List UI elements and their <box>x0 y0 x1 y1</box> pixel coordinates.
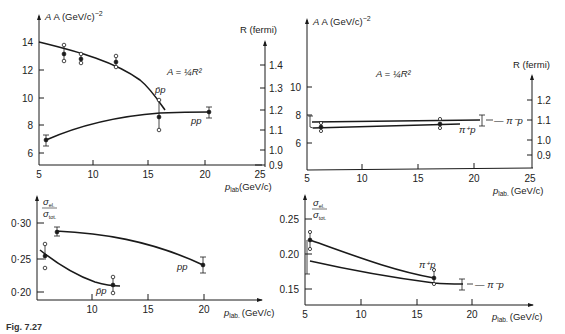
y-tick-label: 6 <box>295 138 301 149</box>
chart-bottom-right: 5 10 15 20 0.25 0.20 0.15 σel. σtot. π⁺p… <box>280 194 543 323</box>
chart-top-right: 5 10 15 20 25 10 8 6 1.2 1.1 1.0 0.9 A A… <box>290 15 551 197</box>
series-label-pbarp: p̄p <box>95 285 107 296</box>
y-tick-label: 12 <box>22 65 34 76</box>
y-tick-label: 8 <box>27 120 33 131</box>
x-tick-label: 15 <box>411 309 423 320</box>
y-tick-label: 0·30 <box>11 218 31 229</box>
series-label-pp: pp <box>190 115 202 126</box>
y-tick-label: 0·25 <box>11 254 31 265</box>
y-axis-label: σel. σtot. <box>42 196 57 220</box>
piplus-p-fit-curve <box>310 240 434 278</box>
formula-annotation: A = ¼R² <box>166 66 203 77</box>
y2-tick-label: 1.2 <box>537 95 551 106</box>
y2-tick-label: 1.2 <box>269 105 283 116</box>
y-tick-label: 6 <box>27 148 33 159</box>
y-tick-label: 0.20 <box>280 249 300 260</box>
y2-tick-label: 0.9 <box>537 150 551 161</box>
x-axis <box>307 168 533 170</box>
pp-fit-curve <box>46 112 210 140</box>
y2-tick-label: 1.3 <box>269 83 283 94</box>
x-axis-arrow-icon <box>528 303 534 307</box>
series-label-pbarp: p̄p <box>154 84 166 95</box>
x-tick-label: 15 <box>142 169 154 180</box>
y-axis-label: A A (GeV/c)−2 <box>312 15 371 27</box>
y-axis-arrow-icon <box>37 14 41 20</box>
y2-tick-label: 1.0 <box>269 145 283 156</box>
y-axis-label: σel. σtot. <box>312 197 327 221</box>
x-tick-label: 15 <box>142 304 154 315</box>
y2-axis-arrow-icon <box>263 40 267 46</box>
x-tick-label: 10 <box>355 309 367 320</box>
y-axis-arrow-icon <box>35 195 39 201</box>
y2-tick-label: 1.4 <box>269 60 283 71</box>
series-label-piminus-p: — π⁻p <box>474 279 504 290</box>
pbarp-fit-curve <box>39 42 165 110</box>
y2-axis-label: R (fermi) <box>513 59 550 70</box>
svg-text:σtot.: σtot. <box>43 208 57 220</box>
y-tick-label: 10 <box>22 93 34 104</box>
svg-text:σel.: σel. <box>43 196 55 208</box>
x-axis-label: plab.(GeV/c) <box>491 311 543 323</box>
y2-tick-label: 1.1 <box>269 125 283 136</box>
formula-annotation: A = ¼R² <box>375 68 412 79</box>
x-tick-label: 10 <box>86 304 98 315</box>
figure-canvas: 5 10 15 20 25 14 12 10 8 6 1.4 1.3 1.2 1… <box>0 0 565 334</box>
svg-text:σel.: σel. <box>313 197 325 209</box>
x-tick-label: 15 <box>412 173 424 184</box>
chart-top-left: 5 10 15 20 25 14 12 10 8 6 1.4 1.3 1.2 1… <box>22 10 283 193</box>
x-tick-label: 10 <box>87 169 99 180</box>
x-tick-label: 25 <box>254 169 266 180</box>
x-axis-label: plab.(GeV/c) <box>492 185 544 197</box>
series-label-piplus-p: π⁺p <box>459 124 476 135</box>
y-tick-label: 10 <box>290 82 302 93</box>
y-axis-arrow-icon <box>303 194 307 200</box>
x-tick-label: 5 <box>36 169 42 180</box>
y2-tick-label: 1.1 <box>537 115 551 126</box>
series-label-piplus-p: π⁺p <box>419 259 436 270</box>
piminus-p-fit-line <box>312 120 480 122</box>
piminus-p-fit-curve <box>310 261 463 284</box>
y2-tick-label: 1.0 <box>537 135 551 146</box>
figure-caption: Fig. 7.27 <box>6 322 42 332</box>
svg-text:σtot.: σtot. <box>313 209 327 221</box>
x-tick-label: 20 <box>198 304 210 315</box>
y2-tick-label: 0.9 <box>269 160 283 171</box>
pp-fit-curve <box>56 231 203 265</box>
pbarp-data-points <box>62 43 161 132</box>
x-tick-label: 5 <box>302 309 308 320</box>
y-axis-arrow-icon <box>305 18 309 24</box>
y-tick-label: 14 <box>22 37 34 48</box>
x-axis-arrow-icon <box>257 298 263 302</box>
y2-axis-label: R (fermi) <box>240 24 277 35</box>
y-tick-label: 0.25 <box>280 214 300 225</box>
y-tick-label: 0.15 <box>280 284 300 295</box>
y-axis-label: A A (GeV/c)−2 <box>44 10 103 22</box>
x-tick-label: 10 <box>356 173 368 184</box>
x-tick-label: 25 <box>524 173 536 184</box>
y2-axis-arrow-icon <box>530 74 534 80</box>
pbarp-fit-curve <box>40 250 120 286</box>
y-tick-label: 8 <box>295 110 301 121</box>
chart-bottom-left: 10 15 20 0·30 0·25 0·20 σel. σtot. pp p̄… <box>11 195 275 319</box>
data-points <box>308 230 436 285</box>
series-label-piminus-p: — π⁻p <box>493 115 523 126</box>
x-axis-label: plab(GeV/c) <box>224 181 272 193</box>
x-axis-label: plab.(GeV/c) <box>223 307 275 319</box>
x-tick-label: 5 <box>304 173 310 184</box>
x-tick-label: 20 <box>468 173 480 184</box>
x-tick-label: 20 <box>466 309 478 320</box>
y-tick-label: 0·20 <box>11 287 31 298</box>
series-label-pp: pp <box>176 261 188 272</box>
x-tick-label: 20 <box>199 169 211 180</box>
